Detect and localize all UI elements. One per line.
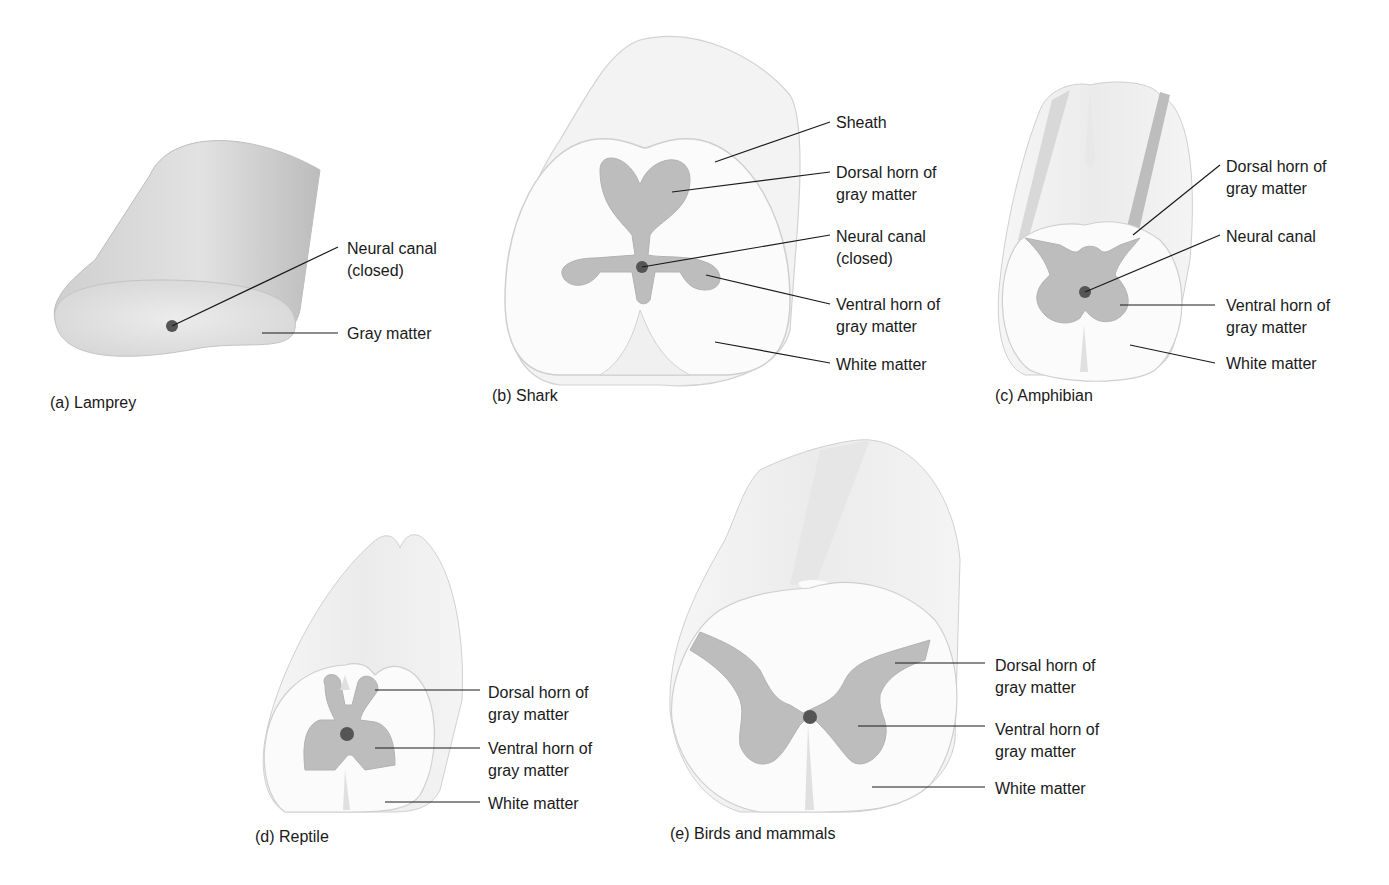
label-shark-sheath: Sheath xyxy=(836,112,887,134)
label-shark-ventral-horn: Ventral horn of gray matter xyxy=(836,294,940,338)
lamprey-cord xyxy=(54,141,338,357)
caption-reptile: (d) Reptile xyxy=(255,827,329,847)
amphibian-cord xyxy=(998,82,1220,381)
label-amphibian-ventral-horn: Ventral horn of gray matter xyxy=(1226,295,1330,339)
mammal-cord xyxy=(670,440,985,812)
label-amphibian-neural-canal: Neural canal xyxy=(1226,226,1316,248)
label-lamprey-neural-canal: Neural canal (closed) xyxy=(347,238,437,282)
caption-birds-mammals: (e) Birds and mammals xyxy=(670,824,835,844)
label-amphibian-dorsal-horn: Dorsal horn of gray matter xyxy=(1226,156,1327,200)
label-shark-dorsal-horn: Dorsal horn of gray matter xyxy=(836,162,937,206)
label-shark-white-matter: White matter xyxy=(836,354,927,376)
caption-amphibian: (c) Amphibian xyxy=(995,386,1093,406)
caption-shark: (b) Shark xyxy=(492,386,558,406)
label-reptile-ventral-horn: Ventral horn of gray matter xyxy=(488,738,592,782)
shark-cord xyxy=(505,36,830,385)
label-mammal-ventral-horn: Ventral horn of gray matter xyxy=(995,719,1099,763)
label-amphibian-white-matter: White matter xyxy=(1226,353,1317,375)
label-reptile-dorsal-horn: Dorsal horn of gray matter xyxy=(488,682,589,726)
label-mammal-dorsal-horn: Dorsal horn of gray matter xyxy=(995,655,1096,699)
label-lamprey-gray-matter: Gray matter xyxy=(347,323,431,345)
label-reptile-white-matter: White matter xyxy=(488,793,579,815)
label-shark-neural-canal: Neural canal (closed) xyxy=(836,226,926,270)
caption-lamprey: (a) Lamprey xyxy=(50,393,136,413)
diagram-artwork xyxy=(0,0,1389,885)
reptile-cord xyxy=(263,535,480,812)
label-mammal-white-matter: White matter xyxy=(995,778,1086,800)
